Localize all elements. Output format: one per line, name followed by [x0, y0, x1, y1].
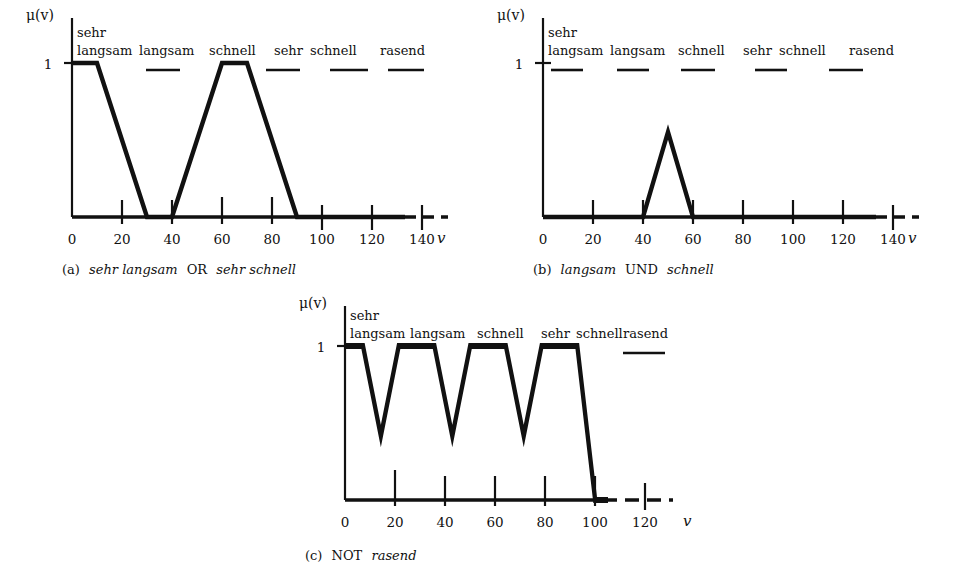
y-axis-label-c: μ(v) [299, 295, 327, 311]
y-tick-label-b: 1 [515, 56, 524, 72]
term-label-rasend: rasend [623, 326, 668, 341]
x-tick-label: 60 [213, 231, 230, 247]
caption-b-prefix: (b) [533, 262, 551, 277]
x-axis-label-a: v [437, 229, 446, 247]
term-labels-c: sehr langsam langsam schnell sehr schnel… [350, 308, 668, 341]
x-tick-label: 40 [634, 231, 651, 247]
x-tick-label: 100 [780, 231, 806, 247]
x-tick-label: 140 [409, 231, 435, 247]
caption-c-term1: rasend [371, 548, 416, 563]
x-axis-label-c: v [683, 512, 692, 530]
caption-a-operator: OR [187, 262, 209, 277]
x-tick-label: 20 [386, 514, 403, 530]
caption-c-operator: NOT [332, 548, 363, 563]
chart-panel-b: μ(v) 1 v 0 20 40 60 80 100 120 140 sehr … [471, 0, 978, 285]
x-tick-label: 40 [163, 231, 180, 247]
term-label-sehr-schnell: schnell [310, 43, 357, 58]
term-label-sehr-schnell: schnell [576, 326, 623, 341]
y-tick-label-a: 1 [44, 56, 53, 72]
x-tick-labels-b: 0 20 40 60 80 100 120 140 [539, 231, 906, 247]
membership-curve-c [345, 346, 608, 500]
term-label-sehr2: sehr [743, 43, 773, 58]
x-axis-label-b: v [908, 229, 917, 247]
chart-b-svg: μ(v) 1 v 0 20 40 60 80 100 120 140 sehr … [471, 0, 978, 285]
x-tick-label: 80 [536, 514, 553, 530]
caption-b: (b) langsam UND schnell [533, 262, 714, 277]
y-axis-label-b: μ(v) [497, 7, 525, 23]
x-tick-label: 120 [632, 514, 658, 530]
x-tick-label: 80 [263, 231, 280, 247]
term-labels-a: sehr langsam langsam schnell sehr schnel… [77, 25, 425, 58]
x-tick-label: 0 [539, 231, 548, 247]
term-labels-b: sehr langsam langsam schnell sehr schnel… [548, 25, 894, 58]
x-tick-label: 20 [113, 231, 130, 247]
chart-panel-a: μ(v) 1 v 0 20 40 60 80 100 120 140 sehr … [0, 0, 489, 285]
term-label-sehr2: sehr [541, 326, 571, 341]
membership-curve-a [72, 63, 405, 217]
caption-a-prefix: (a) [62, 262, 80, 277]
caption-b-term1: langsam [561, 262, 616, 277]
term-label-sehr: sehr [548, 25, 578, 40]
term-label-schnell: schnell [209, 43, 256, 58]
caption-c-prefix: (c) [305, 548, 322, 563]
x-tick-label: 100 [582, 514, 608, 530]
chart-a-svg: μ(v) 1 v 0 20 40 60 80 100 120 140 sehr … [0, 0, 489, 285]
term-label-sehr-schnell: schnell [779, 43, 826, 58]
term-label-sehr: sehr [350, 308, 380, 323]
x-tick-label: 60 [684, 231, 701, 247]
term-label-sehr2: sehr [274, 43, 304, 58]
caption-b-term2: schnell [667, 262, 714, 277]
x-tick-labels-a: 0 20 40 60 80 100 120 140 [68, 231, 435, 247]
x-tick-label: 40 [436, 514, 453, 530]
term-label-langsam: langsam [139, 43, 194, 58]
y-tick-label-c: 1 [317, 339, 326, 355]
x-ticks-a [122, 197, 422, 230]
x-tick-label: 80 [734, 231, 751, 247]
x-tick-label: 0 [341, 514, 350, 530]
term-label-schnell: schnell [477, 326, 524, 341]
caption-a-term1: sehr langsam [89, 262, 177, 277]
x-tick-label: 20 [584, 231, 601, 247]
term-label-schnell: schnell [678, 43, 725, 58]
caption-a-term2: sehr schnell [216, 262, 296, 277]
x-tick-labels-c: 0 20 40 60 80 100 120 [341, 514, 658, 530]
caption-b-operator: UND [625, 262, 658, 277]
y-axis-label-a: μ(v) [26, 7, 54, 23]
x-tick-label: 100 [309, 231, 335, 247]
x-tick-label: 60 [486, 514, 503, 530]
term-label-langsam: langsam [610, 43, 665, 58]
caption-c: (c) NOT rasend [305, 548, 416, 563]
x-ticks-c [395, 470, 645, 510]
term-label-sehr-langsam: langsam [350, 326, 405, 341]
x-tick-label: 120 [359, 231, 385, 247]
term-label-sehr-langsam: langsam [77, 43, 132, 58]
chart-c-svg: μ(v) 1 v 0 20 40 60 80 100 120 sehr lang… [273, 288, 773, 567]
term-label-sehr-langsam: langsam [548, 43, 603, 58]
term-label-rasend: rasend [849, 43, 894, 58]
chart-panel-c: μ(v) 1 v 0 20 40 60 80 100 120 sehr lang… [273, 288, 773, 567]
x-tick-label: 0 [68, 231, 77, 247]
term-label-sehr: sehr [77, 25, 107, 40]
x-tick-label: 120 [830, 231, 856, 247]
caption-a: (a) sehr langsam OR sehr schnell [62, 262, 296, 277]
term-label-langsam: langsam [410, 326, 465, 341]
x-tick-label: 140 [880, 231, 906, 247]
term-label-rasend: rasend [380, 43, 425, 58]
